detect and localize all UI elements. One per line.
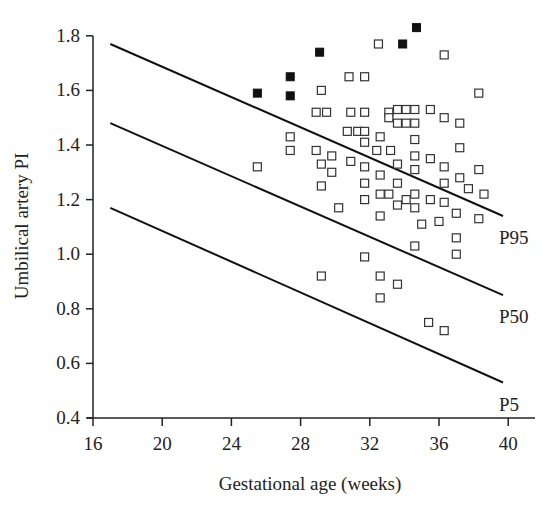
open-square-marker [480, 190, 488, 198]
open-square-marker [393, 179, 401, 187]
open-square-marker [452, 250, 460, 258]
open-square-marker [374, 40, 382, 48]
open-square-marker [440, 51, 448, 59]
open-square-marker [393, 160, 401, 168]
x-tick-label: 32 [360, 433, 379, 454]
open-square-marker [411, 242, 419, 250]
open-square-marker [411, 119, 419, 127]
open-square-marker [347, 108, 355, 116]
open-square-marker [411, 166, 419, 174]
open-square-marker [426, 155, 434, 163]
open-square-marker [411, 204, 419, 212]
y-tick-label: 1.8 [56, 25, 80, 46]
open-square-marker [345, 73, 353, 81]
y-tick-label: 0.6 [56, 352, 80, 373]
open-square-marker [452, 234, 460, 242]
open-square-marker [361, 73, 369, 81]
open-square-marker [426, 196, 434, 204]
filled-square-marker [316, 48, 324, 56]
open-square-marker [411, 136, 419, 144]
open-square-marker [402, 106, 410, 114]
open-square-marker [376, 190, 384, 198]
y-tick-label: 0.8 [56, 298, 80, 319]
open-square-marker [317, 272, 325, 280]
open-square-marker [376, 272, 384, 280]
percentile-label-p95: P95 [499, 227, 529, 248]
umbilical-artery-pi-chart: 0.40.60.81.01.21.41.61.8 16202428323640 … [0, 0, 545, 509]
open-square-marker [418, 220, 426, 228]
x-axis-ticks: 16202428323640 [84, 418, 518, 454]
open-square-marker [317, 86, 325, 94]
open-square-marker [456, 144, 464, 152]
open-square-marker [411, 190, 419, 198]
open-square-marker [411, 152, 419, 160]
open-square-marker [312, 146, 320, 154]
percentile-line-p95 [110, 44, 503, 216]
open-square-marker [373, 146, 381, 154]
open-square-marker [361, 163, 369, 171]
open-square-marker [343, 127, 351, 135]
open-square-marker [376, 294, 384, 302]
open-square-marker [475, 166, 483, 174]
open-square-marker [426, 106, 434, 114]
open-square-marker [456, 119, 464, 127]
open-square-marker [402, 196, 410, 204]
open-square-marker [452, 209, 460, 217]
open-square-marker [361, 108, 369, 116]
open-square-marker [440, 198, 448, 206]
filled-square-marker [413, 24, 421, 32]
open-square-marker [312, 108, 320, 116]
open-square-marker [393, 119, 401, 127]
open-square-marker [435, 217, 443, 225]
open-square-marker [385, 114, 393, 122]
open-square-marker [286, 133, 294, 141]
open-square-marker [402, 119, 410, 127]
open-square-marker [347, 157, 355, 165]
open-square-marker [393, 201, 401, 209]
open-square-marker [440, 327, 448, 335]
open-square-marker [464, 185, 472, 193]
open-square-marker [361, 127, 369, 135]
x-tick-label: 40 [499, 433, 518, 454]
open-square-marker [317, 160, 325, 168]
filled-square-marker [399, 40, 407, 48]
percentile-line-p50 [110, 123, 503, 295]
open-square-marker [393, 280, 401, 288]
y-tick-label: 1.2 [56, 189, 80, 210]
y-tick-label: 1.6 [56, 79, 80, 100]
open-square-marker [475, 89, 483, 97]
open-square-marker [475, 215, 483, 223]
percentile-line-p5 [110, 208, 503, 383]
percentile-label-p5: P5 [499, 394, 519, 415]
open-square-marker [361, 179, 369, 187]
open-square-marker [393, 106, 401, 114]
open-square-marker [361, 138, 369, 146]
x-tick-label: 20 [153, 433, 172, 454]
open-square-marker [328, 168, 336, 176]
open-square-marker [323, 108, 331, 116]
open-square-marker [440, 163, 448, 171]
open-square-marker [317, 182, 325, 190]
open-square-marker [376, 212, 384, 220]
x-tick-label: 36 [430, 433, 449, 454]
open-square-marker [361, 253, 369, 261]
open-square-marker [385, 190, 393, 198]
y-axis-ticks: 0.40.60.81.01.21.41.61.8 [56, 25, 93, 428]
percentile-labels: P95P50P5 [499, 227, 529, 415]
y-tick-label: 0.4 [56, 407, 80, 428]
filled-square-marker [286, 92, 294, 100]
open-square-marker [328, 152, 336, 160]
y-tick-label: 1.4 [56, 134, 80, 155]
open-square-marker [440, 179, 448, 187]
open-square-marker [425, 318, 433, 326]
filled-square-marker [286, 73, 294, 81]
open-square-marker [286, 146, 294, 154]
x-tick-label: 24 [222, 433, 242, 454]
open-square-marker [361, 196, 369, 204]
open-square-marker [440, 114, 448, 122]
y-tick-label: 1.0 [56, 243, 80, 264]
filled-square-marker [253, 89, 261, 97]
percentile-label-p50: P50 [499, 306, 529, 327]
open-square-marker [376, 133, 384, 141]
open-square-marker [253, 163, 261, 171]
